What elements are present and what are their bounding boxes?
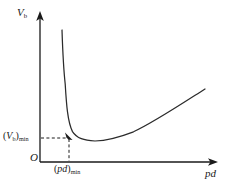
pd-min-subscript: min: [71, 168, 81, 175]
vb-min-subscript: min: [19, 135, 29, 142]
y-axis-label-subscript: b: [24, 12, 27, 19]
pd-min-label: (pd)min: [54, 164, 80, 174]
minimum-point-marker-icon: [65, 133, 73, 141]
x-axis-label: pd: [205, 168, 216, 179]
vb-min-label: (Vb)min: [3, 131, 29, 141]
y-axis-label-var: V: [17, 6, 24, 18]
breakdown-voltage-curve: [62, 30, 205, 141]
pd-min-var: pd: [57, 163, 67, 174]
vb-min-var-subscript: b: [12, 135, 15, 142]
origin-label: O: [30, 152, 38, 163]
paschen-curve-figure: Vb pd O (Vb)min (pd)min: [0, 0, 235, 186]
y-axis-label: Vb: [17, 7, 27, 18]
